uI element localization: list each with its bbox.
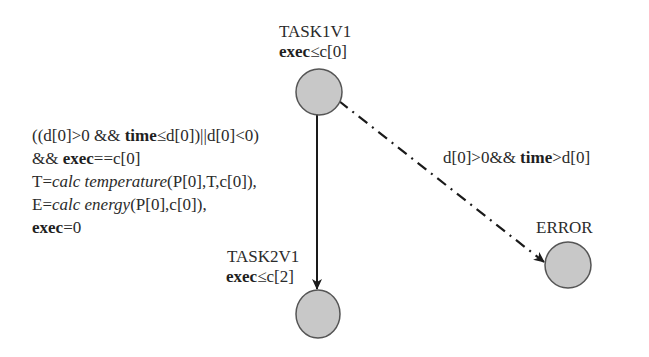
- state-label-task2v1: TASK2V1 exec≤c[2]: [226, 247, 299, 287]
- update-line-exec-reset: exec=0: [32, 216, 259, 239]
- state-name: TASK2V1: [226, 247, 299, 267]
- state-label-task1v1: TASK1V1 exec≤c[0]: [279, 22, 351, 62]
- state-node-task2v1[interactable]: [296, 290, 340, 338]
- guard-line-2: && exec==c[0]: [32, 147, 259, 170]
- state-invariant: exec≤c[0]: [279, 42, 351, 62]
- edge-task1-to-error: [339, 101, 544, 262]
- state-node-error[interactable]: [545, 242, 591, 288]
- state-name: TASK1V1: [279, 22, 351, 42]
- state-name: ERROR: [536, 218, 593, 238]
- update-line-energy: E=calc energy(P[0],c[0]),: [32, 193, 259, 216]
- transition-label-task1-to-task2: ((d[0]>0 && time≤d[0])||d[0]<0) && exec=…: [32, 124, 259, 239]
- guard-line-1: ((d[0]>0 && time≤d[0])||d[0]<0): [32, 124, 259, 147]
- state-node-task1v1[interactable]: [296, 69, 342, 115]
- update-line-temperature: T=calc temperature(P[0],T,c[0]),: [32, 170, 259, 193]
- state-label-error: ERROR: [536, 218, 593, 238]
- transition-label-task1-to-error: d[0]>0&& time>d[0]: [443, 148, 590, 168]
- state-invariant: exec≤c[2]: [226, 267, 299, 287]
